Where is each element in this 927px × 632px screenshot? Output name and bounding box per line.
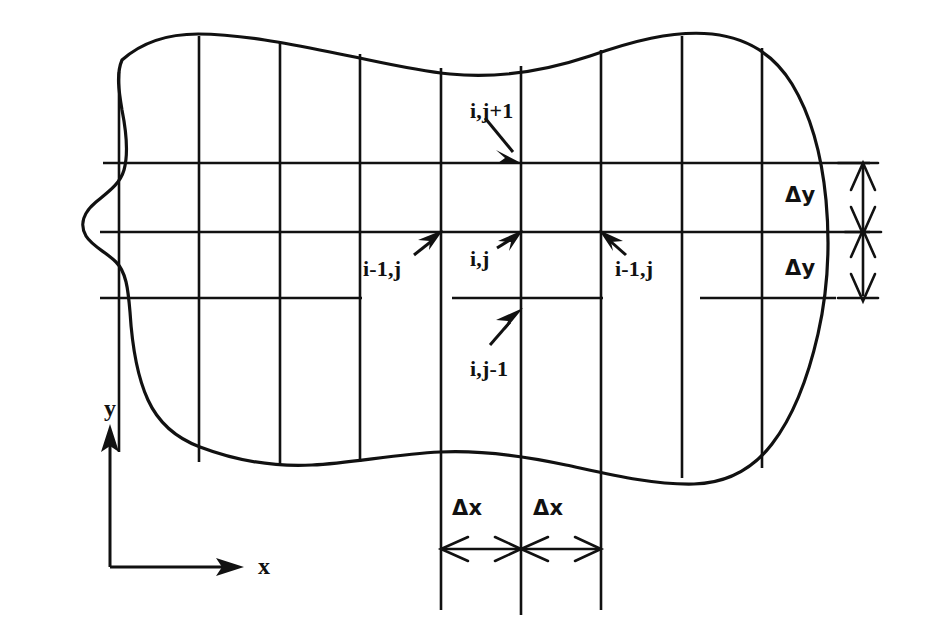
node-label-i-minus-1-j-left: i-1,j [363, 258, 401, 280]
delta-y-dimension-group [838, 163, 881, 301]
pointer-line-i-j-plus-1 [485, 118, 513, 152]
coordinate-axes-group [101, 424, 244, 576]
figure-canvas: i,j+1 i-1,j i,j i-1,j i,j-1 Δy Δy Δx Δx … [0, 0, 927, 632]
delta-x-left-label: Δx [452, 498, 482, 519]
pointer-arrowhead-i-j-minus-1 [496, 308, 523, 330]
domain-boundary-group [83, 33, 828, 484]
delta-x-right-label: Δx [533, 498, 563, 519]
node-label-i-j-plus-1: i,j+1 [470, 100, 513, 122]
delta-y-lower-label: Δy [785, 258, 815, 279]
x-axis-label: x [258, 554, 270, 578]
node-label-i-j: i,j [470, 248, 490, 270]
grid-vertical-lines [119, 36, 762, 615]
delta-y-upper-label: Δy [785, 185, 815, 206]
node-label-i-minus-1-j-right: i-1,j [615, 258, 653, 280]
grid-horizontal-lines [100, 163, 870, 298]
finite-difference-grid-diagram [0, 0, 927, 632]
domain-boundary-outline [83, 33, 828, 484]
y-axis-label: y [104, 396, 116, 420]
node-label-i-j-minus-1: i,j-1 [470, 358, 508, 380]
